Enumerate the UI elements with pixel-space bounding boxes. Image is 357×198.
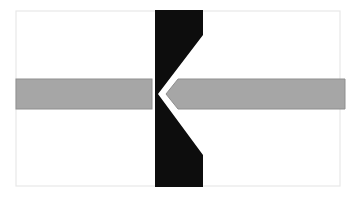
gray-arrow-right xyxy=(166,79,345,109)
gray-bar-left xyxy=(16,79,152,109)
figure-canvas xyxy=(0,0,357,198)
figure-container: Abstract geometric figure: gray horizont… xyxy=(0,0,357,198)
